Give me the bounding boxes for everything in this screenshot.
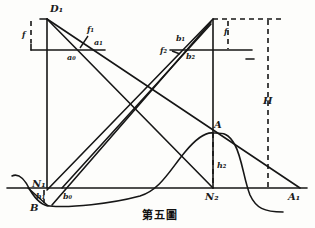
figure-caption: 第五圖 (142, 206, 178, 222)
label-f1: f₁ (87, 25, 94, 33)
label-N1: N₁ (32, 179, 46, 189)
label-a0: a₀ (67, 53, 76, 61)
diagram-figure: D₁ f f₁ a₁ a₀ b₁ f₂ b₂ f H A h₂ N₁ h₁ b₀… (0, 0, 315, 228)
label-h1: h₁ (36, 192, 45, 200)
label-a1: a₁ (94, 38, 103, 46)
label-A1: A₁ (288, 192, 300, 202)
label-b1: b₁ (176, 34, 185, 42)
label-B: B (30, 203, 38, 213)
f2-arrow-icon (172, 51, 180, 54)
label-A: A (214, 120, 222, 130)
label-f-left: f (22, 30, 25, 38)
label-f-right: f (224, 27, 227, 35)
label-D1: D₁ (50, 4, 63, 14)
ground-profile-curve (12, 133, 283, 212)
label-H: H (263, 96, 272, 106)
label-b2: b₂ (186, 52, 195, 60)
diagram-drawing (0, 0, 315, 228)
label-b0: b₀ (63, 192, 72, 200)
label-f2: f₂ (160, 46, 167, 54)
label-h2: h₂ (217, 161, 226, 169)
label-N2: N₂ (205, 192, 219, 202)
